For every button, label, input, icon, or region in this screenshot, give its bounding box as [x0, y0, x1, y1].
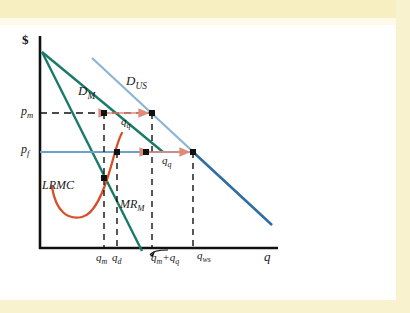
- curve-label-dus: DUS: [126, 74, 147, 91]
- annotation-label-qq-upper-sub: q: [127, 121, 131, 130]
- quantity-tick-qws-sub: ws: [203, 255, 211, 264]
- x-axis-label: q: [264, 250, 271, 263]
- price-tick-pf-sub: f: [27, 148, 29, 158]
- point-mr-lrmc-intersection: [101, 175, 107, 181]
- curve-label-dm: DM: [78, 84, 95, 101]
- point-world-at-pm: [149, 110, 155, 116]
- curve-label-dus-sub: US: [135, 81, 146, 91]
- quantity-tick-qm-plus-qq: qm+qq: [151, 252, 179, 266]
- world-demand-curve-lower: [193, 152, 272, 225]
- point-monopoly-domestic: [101, 110, 107, 116]
- curve-label-dm-base: D: [78, 83, 87, 98]
- annotation-label-qq-lower-sub: q: [168, 160, 172, 169]
- annotation-label-qq-upper: qq: [121, 116, 130, 130]
- point-world-at-pf: [190, 149, 196, 155]
- quantity-tick-qm: qm: [96, 252, 107, 266]
- curve-label-mrm: MRM: [120, 198, 145, 213]
- curve-label-mrm-base: MR: [120, 197, 137, 211]
- lrmc-curve: [52, 133, 122, 218]
- point-dm-at-pf: [143, 149, 149, 155]
- quantity-tick-qd: qd: [112, 252, 121, 266]
- quantity-tick-qd-sub: d: [118, 257, 122, 266]
- curve-label-lrmc: LRMC: [42, 179, 74, 191]
- price-tick-pm-sub: m: [27, 110, 33, 120]
- y-axis-label: $: [22, 32, 29, 48]
- quantity-tick-qm-plus-qq-extra-sub: q: [175, 257, 179, 266]
- price-tick-pm: pm: [21, 105, 33, 120]
- economics-diagram-svg: [0, 0, 410, 313]
- figure-canvas: $ q pm pf qm qd qm+qq qws DM DUS MRM LRM…: [0, 0, 410, 313]
- quantity-tick-qm-plus-qq-extra: +q: [162, 251, 175, 263]
- curve-label-dus-base: D: [126, 73, 135, 88]
- curve-label-dm-sub: M: [87, 91, 95, 101]
- curve-label-mrm-sub: M: [137, 203, 144, 213]
- annotation-label-qq-lower: qq: [162, 155, 171, 169]
- quantity-tick-qm-sub: m: [102, 257, 108, 266]
- quantity-tick-qws: qws: [197, 250, 211, 264]
- price-tick-pf: pf: [21, 143, 29, 158]
- point-domestic-at-pf: [114, 149, 120, 155]
